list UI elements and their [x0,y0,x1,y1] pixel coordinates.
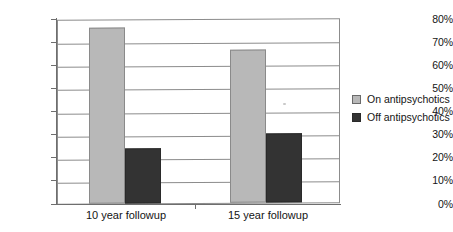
y-tick-mark-30 [51,134,57,135]
x-axis-label-15-year: 15 year followup [196,209,340,221]
bar-on-15-year [230,50,266,203]
legend: On antipsychotics Off antipsychotics [352,94,450,123]
y-tick-mark-60 [51,65,57,66]
y-tick-label-0: 0% [401,199,453,210]
legend-item-on-antipsychotics: On antipsychotics [352,94,450,105]
bar-on-10-year [89,28,125,204]
y-tick-mark-10 [51,180,57,181]
bar-off-15-year [266,133,302,203]
y-tick-label-50: 50% [401,83,453,94]
bar-chart: 80% 70% 60% 50% 40% 30% 20% 10% 0% 10 ye… [0,0,453,232]
y-tick-mark-0 [51,204,57,205]
y-tick-label-20: 20% [401,152,453,163]
y-tick-mark-40 [51,111,57,112]
y-tick-mark-50 [51,88,57,89]
bar-off-10-year [125,148,161,204]
y-tick-mark-70 [51,42,57,43]
legend-swatch-off-icon [352,113,361,122]
legend-label-off: Off antipsychotics [367,112,450,123]
y-tick-mark-20 [51,157,57,158]
y-tick-mark-80 [51,19,57,20]
y-tick-label-70: 70% [401,37,453,48]
y-tick-label-30: 30% [401,129,453,140]
y-tick-label-10: 10% [401,175,453,186]
x-axis-label-10-year: 10 year followup [57,209,195,221]
legend-label-on: On antipsychotics [367,94,450,105]
y-tick-label-60: 60% [401,60,453,71]
legend-swatch-on-icon [352,95,361,104]
x-axis-line [56,204,341,205]
legend-item-off-antipsychotics: Off antipsychotics [352,112,450,123]
plot-area [57,18,340,205]
y-tick-label-80: 80% [401,14,453,25]
scan-speck [283,103,286,105]
